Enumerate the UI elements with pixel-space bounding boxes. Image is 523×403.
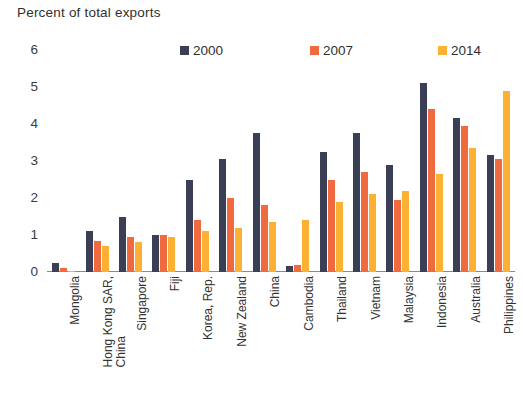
bar-chart: Percent of total exports 200020072014 01…	[0, 0, 523, 403]
bar-2000	[152, 235, 159, 272]
bar-group	[47, 50, 80, 272]
bar-group	[181, 50, 214, 272]
bar-2014	[102, 246, 109, 272]
bar-2014	[135, 242, 142, 272]
chart-title: Percent of total exports	[17, 5, 161, 20]
bar-2014	[302, 220, 309, 272]
y-tick-label: 1	[8, 228, 38, 242]
bar-2000	[86, 231, 93, 272]
bar-group	[80, 50, 113, 272]
bar-2007	[394, 200, 401, 272]
bar-2000	[487, 155, 494, 272]
bar-group	[248, 50, 281, 272]
bar-2007	[495, 159, 502, 272]
x-category-label: Philippines	[503, 276, 516, 334]
x-category-label: Cambodia	[303, 276, 316, 331]
bar-2007	[461, 126, 468, 272]
bar-2014	[369, 194, 376, 272]
bar-2007	[361, 172, 368, 272]
x-category-label: China	[269, 276, 282, 307]
x-category-label: Fiji	[169, 276, 182, 291]
bar-2007	[127, 237, 134, 272]
x-category-label: Singapore	[136, 276, 149, 331]
bar-2007	[160, 235, 167, 272]
x-category-label: Hong Kong SAR, China	[102, 276, 128, 367]
bar-2007	[261, 205, 268, 272]
bar-2007	[227, 198, 234, 272]
bar-2014	[269, 222, 276, 272]
bar-2014	[235, 228, 242, 272]
y-tick-label: 2	[8, 191, 38, 205]
bar-group	[281, 50, 314, 272]
bar-2000	[186, 180, 193, 273]
bar-group	[114, 50, 147, 272]
x-category-label: Australia	[470, 276, 483, 323]
x-category-label: Korea, Rep.	[202, 276, 215, 340]
bar-group	[448, 50, 481, 272]
bar-group	[214, 50, 247, 272]
bar-2000	[219, 159, 226, 272]
y-tick-label: 0	[8, 265, 38, 279]
bar-2007	[94, 241, 101, 272]
y-tick-label: 3	[8, 154, 38, 168]
bar-2000	[420, 83, 427, 272]
bar-group	[147, 50, 180, 272]
x-category-label: Indonesia	[436, 276, 449, 328]
x-category-label: New Zealand	[236, 276, 249, 347]
bar-2014	[202, 231, 209, 272]
bar-2000	[453, 118, 460, 272]
bar-2014	[168, 237, 175, 272]
bar-2000	[52, 263, 59, 272]
bar-2014	[336, 202, 343, 272]
y-tick-label: 5	[8, 80, 38, 94]
bar-2000	[353, 133, 360, 272]
x-axis-category-labels: MongoliaHong Kong SAR, ChinaSingaporeFij…	[47, 272, 515, 403]
bar-2000	[386, 165, 393, 272]
bar-2007	[194, 220, 201, 272]
bar-2007	[428, 109, 435, 272]
bar-2000	[320, 152, 327, 272]
y-axis-tick-labels: 0123456	[8, 50, 38, 272]
bar-2000	[253, 133, 260, 272]
bar-2014	[436, 174, 443, 272]
bar-group	[348, 50, 381, 272]
bar-2000	[119, 217, 126, 273]
bar-2007	[328, 180, 335, 273]
bar-2014	[402, 191, 409, 272]
bar-2014	[503, 91, 510, 272]
bar-group	[381, 50, 414, 272]
x-category-label: Vietnam	[370, 276, 383, 320]
bar-2007	[294, 265, 301, 272]
bar-2014	[469, 148, 476, 272]
x-category-label: Thailand	[336, 276, 349, 322]
bar-group	[482, 50, 515, 272]
y-tick-label: 4	[8, 117, 38, 131]
bar-group	[314, 50, 347, 272]
x-category-label: Malaysia	[403, 276, 416, 323]
bar-group	[415, 50, 448, 272]
y-tick-label: 6	[8, 43, 38, 57]
plot-area	[47, 50, 515, 272]
x-category-label: Mongolia	[69, 276, 82, 325]
